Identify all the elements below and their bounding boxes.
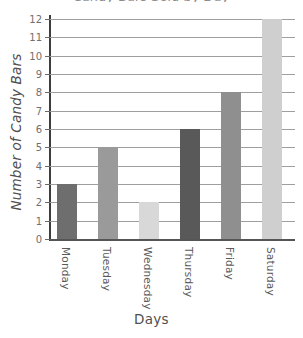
gridline	[50, 202, 295, 203]
bar-tuesday[interactable]	[98, 147, 118, 239]
gridline	[50, 37, 295, 38]
y-tick-label: 2	[36, 197, 42, 208]
bar-chart-figure: Candy Bars Sold by Day Number of Candy B…	[0, 0, 303, 338]
y-tick-mark	[45, 92, 50, 93]
gridline	[50, 74, 295, 75]
gridline	[50, 129, 295, 130]
x-tick-label-friday: Friday	[224, 247, 236, 280]
gridline	[50, 56, 295, 57]
gridline	[50, 184, 295, 185]
y-tick-label: 8	[36, 87, 42, 98]
y-tick-label: 9	[36, 69, 42, 80]
bar-thursday[interactable]	[180, 129, 200, 239]
y-tick-label: 1	[36, 215, 42, 226]
y-tick-mark	[45, 166, 50, 167]
x-axis-baseline	[50, 239, 295, 241]
gridline	[50, 221, 295, 222]
y-tick-mark	[45, 184, 50, 185]
bar-saturday[interactable]	[262, 19, 282, 239]
y-tick-mark	[45, 37, 50, 38]
gridline	[50, 19, 295, 20]
chart-title: Candy Bars Sold by Day	[0, 0, 303, 2]
x-tick-label-wednesday: Wednesday	[142, 247, 154, 310]
y-tick-mark	[45, 56, 50, 57]
y-tick-label: 6	[36, 124, 42, 135]
y-tick-mark	[45, 111, 50, 112]
y-tick-mark	[45, 129, 50, 130]
bar-friday[interactable]	[221, 92, 241, 239]
y-axis-title: Number of Candy Bars	[8, 27, 24, 237]
x-axis-title: Days	[0, 311, 303, 327]
bar-monday[interactable]	[57, 184, 77, 239]
plot-area: 0123456789101112	[50, 19, 295, 239]
gridline	[50, 147, 295, 148]
y-tick-label: 10	[29, 50, 42, 61]
bar-wednesday[interactable]	[139, 202, 159, 239]
y-tick-mark	[45, 74, 50, 75]
x-tick-label-thursday: Thursday	[183, 247, 195, 297]
y-tick-mark	[45, 221, 50, 222]
gridline	[50, 111, 295, 112]
y-tick-mark	[45, 239, 50, 240]
y-tick-mark	[45, 19, 50, 20]
y-tick-label: 7	[36, 105, 42, 116]
y-tick-mark	[45, 202, 50, 203]
x-tick-label-saturday: Saturday	[265, 247, 277, 296]
y-tick-label: 5	[36, 142, 42, 153]
y-tick-label: 11	[29, 32, 42, 43]
y-tick-label: 3	[36, 179, 42, 190]
y-tick-label: 0	[36, 234, 42, 245]
y-tick-label: 12	[29, 14, 42, 25]
y-tick-label: 4	[36, 160, 42, 171]
x-tick-label-tuesday: Tuesday	[101, 247, 113, 291]
gridline	[50, 92, 295, 93]
y-tick-mark	[45, 147, 50, 148]
gridline	[50, 166, 295, 167]
x-tick-label-monday: Monday	[60, 247, 72, 290]
